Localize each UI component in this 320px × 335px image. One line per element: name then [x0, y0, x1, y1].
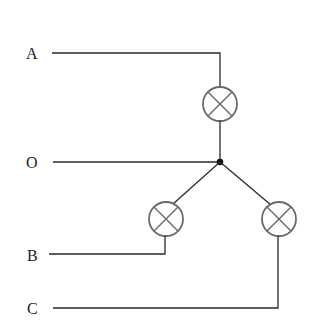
- terminal-label-c: C: [27, 300, 38, 317]
- wire-a: [52, 53, 220, 87]
- terminal-label-a: A: [26, 45, 38, 62]
- lamp-c-icon: [262, 202, 296, 236]
- lamp-b-icon: [149, 202, 183, 236]
- wire-junction-to-lamp-b: [173, 162, 220, 204]
- lamp-a-icon: [203, 87, 237, 121]
- terminal-label-b: B: [27, 247, 38, 264]
- terminal-label-o: O: [26, 154, 38, 171]
- wire-b: [49, 236, 165, 254]
- wire-junction-to-lamp-c: [220, 162, 271, 205]
- circuit-diagram: A O B C: [0, 0, 320, 335]
